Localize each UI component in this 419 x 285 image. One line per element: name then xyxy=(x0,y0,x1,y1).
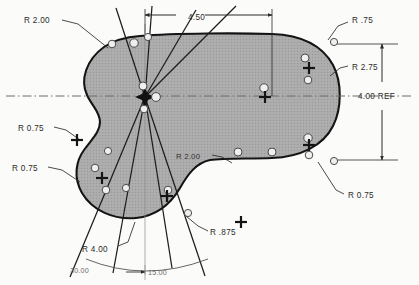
hole-marker xyxy=(130,39,138,47)
hole-marker xyxy=(268,148,276,156)
hole-marker xyxy=(108,40,116,48)
dimension-label-r75-upper-right: R .75 xyxy=(352,16,373,25)
dimension-label-r200-inner: R 2.00 xyxy=(176,152,201,161)
hole-marker xyxy=(304,76,312,84)
drawing-canvas: 4.50 4.00 REF xyxy=(0,0,419,285)
hole-marker xyxy=(184,209,191,216)
dimension-label-r875-bottom: R .875 xyxy=(210,228,236,237)
hole-marker xyxy=(301,54,309,62)
hole-marker xyxy=(144,33,151,40)
dimension-label-r275-right: R 2.75 xyxy=(352,63,378,72)
dimension-label-r400-bottom: R 4.00 xyxy=(82,245,108,254)
dimension-label-angle-1500: 15.00 xyxy=(148,268,167,277)
dimension-label-r200-upper-left: R 2.00 xyxy=(24,16,50,25)
hole-marker xyxy=(91,164,99,172)
hole-marker xyxy=(260,84,268,92)
hole-marker xyxy=(330,157,337,164)
cad-drawing-svg: 4.50 4.00 REF xyxy=(0,0,419,285)
dimension-label-r075-lower-right: R 0.75 xyxy=(348,191,374,200)
dimension-label-r075-left-lower: R 0.75 xyxy=(12,164,38,173)
hole-marker xyxy=(234,148,242,156)
hole-marker xyxy=(102,186,110,194)
dimension-label-450: 4.50 xyxy=(188,13,205,22)
hole-marker xyxy=(104,147,111,154)
dimension-label-r075-left-upper: R 0.75 xyxy=(18,124,44,133)
hole-marker xyxy=(305,151,313,159)
hole-marker xyxy=(139,82,147,90)
dimension-label-angle-3000: 30.00 xyxy=(70,266,89,275)
dimension-label-400ref: 4.00 REF xyxy=(358,92,395,101)
hole-marker xyxy=(122,184,129,191)
hole-marker xyxy=(152,93,161,102)
hole-marker xyxy=(330,38,337,45)
hole-marker xyxy=(140,105,148,113)
